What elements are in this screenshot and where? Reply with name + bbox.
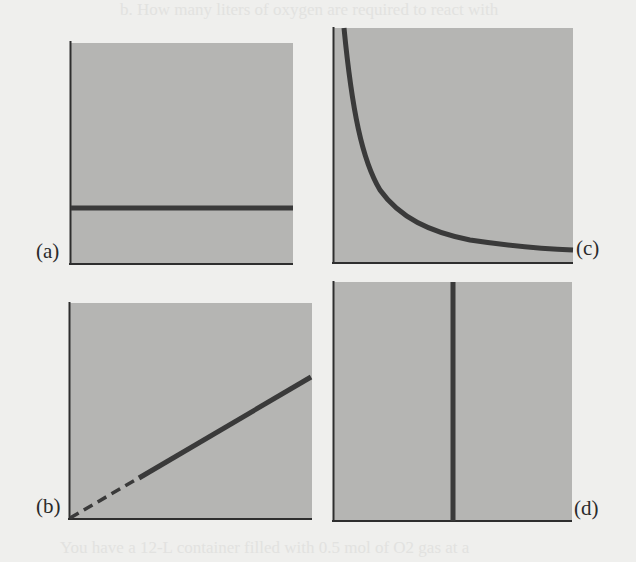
panel-b-label: (b) xyxy=(36,494,61,519)
panel-a-label: (a) xyxy=(36,239,59,264)
panel-a-background xyxy=(71,43,293,264)
panel-c xyxy=(332,27,573,264)
panel-c-background xyxy=(334,28,573,263)
figure-graphs xyxy=(0,0,636,562)
panel-d-label: (d) xyxy=(574,496,599,521)
panel-c-label: (c) xyxy=(576,236,599,261)
panel-b-background xyxy=(70,303,312,519)
panel-b xyxy=(68,302,312,520)
panel-d xyxy=(332,281,572,522)
panel-a xyxy=(69,41,293,265)
